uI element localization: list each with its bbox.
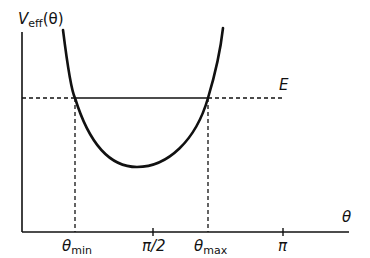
tick-label-theta-max: θmax bbox=[194, 237, 228, 257]
tick-label-theta-min: θmin bbox=[62, 237, 92, 257]
energy-label: E bbox=[279, 76, 289, 94]
y-axis-label: Veff(θ) bbox=[18, 10, 64, 30]
x-axis-label: θ bbox=[342, 208, 351, 226]
tick-label-pi: π bbox=[278, 237, 288, 255]
tick-label-pi-half: π/2 bbox=[142, 237, 166, 255]
effective-potential-diagram: Veff(θ) θ E θmin π/2 θmax π bbox=[0, 0, 370, 258]
